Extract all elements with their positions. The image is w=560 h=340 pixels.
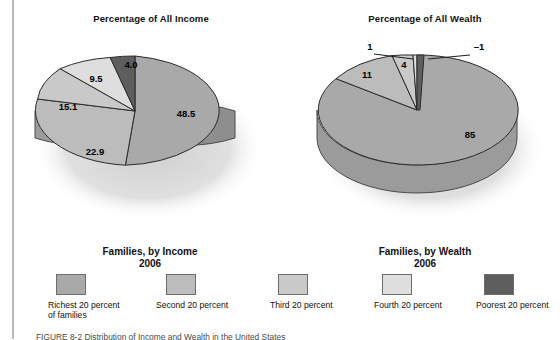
- pie-label-fourth: 1: [367, 41, 373, 52]
- legend-item-fourth[interactable]: Fourth 20 percent: [370, 274, 482, 310]
- group-title-income: Percentage of All Income Families, by In…: [60, 246, 240, 270]
- legend-swatch-richest: [56, 274, 86, 295]
- legend-item-second[interactable]: Second 20 percent: [156, 274, 268, 310]
- pie-slices-wealth: [318, 55, 518, 165]
- legend-swatch-poorest: [484, 274, 514, 295]
- pie-label-poorest: 4.0: [124, 59, 137, 70]
- legend-label-richest-line2: of families: [48, 310, 87, 320]
- pie-label-third: 4: [401, 59, 407, 70]
- legend-swatch-fourth: [382, 274, 412, 295]
- legend-label-third: Third 20 percent: [270, 300, 374, 310]
- group-title-income-text: Families, by Income: [102, 246, 197, 257]
- pie-label-richest: 85: [465, 129, 476, 140]
- pie-chart-wealth: 85 11 4 1 –1: [300, 28, 550, 228]
- group-title-wealth: Families, by Wealth 2006: [335, 246, 515, 270]
- pie-wealth-svg: 85 11 4 1 –1: [300, 28, 550, 228]
- legend-label-second: Second 20 percent: [156, 300, 260, 310]
- legend-label-richest-line1: Richest 20 percent: [48, 300, 120, 310]
- pie-chart-income: 48.5 22.9 15.1 9.5 4.0: [20, 28, 270, 228]
- figure-caption: FIGURE 8-2 Distribution of Income and We…: [36, 332, 536, 340]
- legend-item-poorest[interactable]: Poorest 20 percent: [472, 274, 560, 310]
- pie-income-svg: 48.5 22.9 15.1 9.5 4.0: [20, 28, 270, 228]
- pie-label-poorest: –1: [474, 41, 485, 52]
- pie-label-fourth: 9.5: [89, 73, 103, 84]
- legend-swatch-third: [278, 274, 308, 295]
- legend-swatch-second: [166, 274, 196, 295]
- pie-label-second: 11: [362, 69, 373, 80]
- legend: Richest 20 percent of families Second 20…: [0, 274, 560, 320]
- legend-item-third[interactable]: Third 20 percent: [262, 274, 374, 310]
- chart-title-wealth: Percentage of All Wealth: [345, 13, 505, 24]
- chart-title-income: Percentage of All Income: [66, 13, 236, 24]
- pie-label-second: 22.9: [86, 146, 105, 157]
- group-title-income-year: 2006: [60, 258, 240, 270]
- legend-label-poorest: Poorest 20 percent: [476, 300, 560, 310]
- legend-item-richest[interactable]: Richest 20 percent of families: [48, 274, 160, 321]
- legend-label-fourth: Fourth 20 percent: [374, 300, 478, 310]
- pie-label-richest: 48.5: [177, 108, 196, 119]
- group-title-wealth-text: Families, by Wealth: [379, 246, 472, 257]
- legend-label-richest: Richest 20 percent of families: [48, 300, 152, 321]
- group-title-wealth-year: 2006: [335, 258, 515, 270]
- pie-label-third: 15.1: [59, 101, 78, 112]
